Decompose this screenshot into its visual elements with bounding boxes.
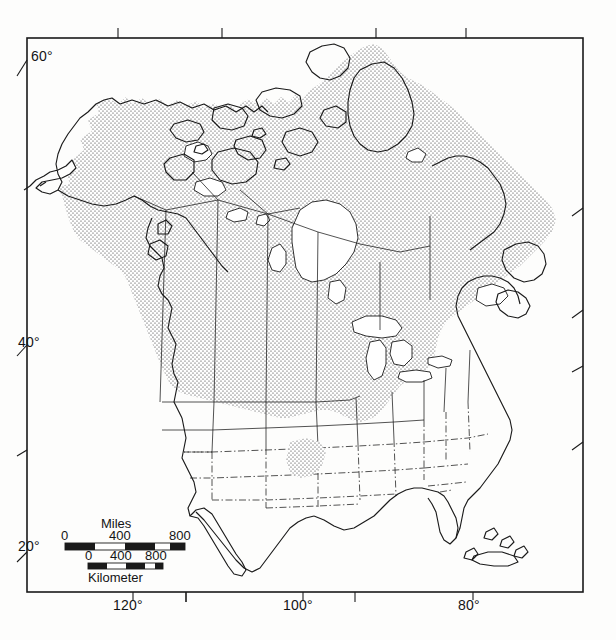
scale-unit-kilometer: Kilometer [88,570,143,585]
state-boundaries-dashed [184,402,488,508]
scale-miles-tick-400: 400 [109,528,131,543]
map-figure: 60° 40° 20° 120° 100° 80° Miles 0 400 80… [0,0,616,640]
species-range-shading [27,38,583,592]
scale-km-tick-400: 400 [110,548,132,563]
map-canvas [0,0,616,640]
latitude-label-40: 40° [18,334,40,350]
scale-bar-kilometer [88,563,163,569]
range-outlier-patch [286,438,326,478]
scale-km-tick-800: 800 [145,548,167,563]
longitude-label-80: 80° [458,597,480,613]
scale-km-tick-0: 0 [85,548,92,563]
latitude-label-60: 60° [31,48,53,64]
latitude-label-20: 20° [18,538,40,554]
scale-miles-tick-800: 800 [169,528,191,543]
scale-miles-tick-0: 0 [61,528,68,543]
longitude-label-100: 100° [283,597,313,613]
longitude-label-120: 120° [113,597,143,613]
